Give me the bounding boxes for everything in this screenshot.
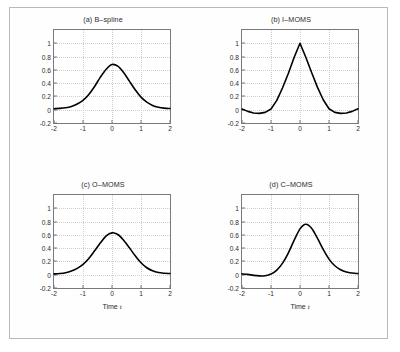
x-axis-label-text-c: Time [102,303,117,310]
data-series-line [54,64,170,108]
x-tick-label: -1 [80,125,86,132]
y-tick-label: 1 [47,40,51,47]
x-tick-label: -1 [268,290,274,297]
x-tick-label: -1 [268,125,274,132]
x-tick-label: 1 [139,125,143,132]
y-tick-label: 0.2 [42,93,51,100]
x-tick-label: 1 [139,290,143,297]
y-tick-label: 0.6 [42,231,51,238]
x-axis-label-d: Time t [241,303,359,311]
data-series-line [242,43,358,113]
y-tick-label: 0.6 [42,66,51,73]
x-tick-label: -2 [51,125,57,132]
panel-c-moms: (d) C–MOMS -2-1012-0.200.20.40.60.81 Tim… [205,180,377,330]
panel-o-moms: (c) O–MOMS -2-1012-0.200.20.40.60.81 Tim… [17,180,189,330]
plot-area-d: -2-1012-0.200.20.40.60.81 [241,194,359,289]
x-tick-label: -2 [239,125,245,132]
y-tick-label: 1 [235,40,239,47]
y-tick-label: 0.6 [230,66,239,73]
panel-i-moms: (b) I–MOMS -2-1012-0.200.20.40.60.81 [205,15,377,155]
x-tick-label: 0 [110,290,114,297]
x-tick-label: 0 [110,125,114,132]
panel-title-d: (d) C–MOMS [205,180,377,189]
x-tick-label: 0 [298,125,302,132]
y-tick-label: 0.6 [230,231,239,238]
y-tick-label: 0 [235,271,239,278]
x-tick-label: 2 [356,290,360,297]
x-axis-label-var-c: t [120,303,122,311]
x-tick-label: 1 [327,125,331,132]
plot-area-a: -2-1012-0.200.20.40.60.81 [53,29,171,124]
y-tick-label: -0.2 [40,120,51,127]
x-tick-label: 2 [168,290,172,297]
y-tick-label: 0.2 [230,258,239,265]
x-axis-label-text-d: Time [290,303,305,310]
y-tick-label: 0.4 [42,80,51,87]
y-tick-label: 0.8 [230,218,239,225]
x-tick-label: -1 [80,290,86,297]
data-series-line [54,233,170,274]
y-tick-label: 0.8 [42,218,51,225]
x-tick-label: 2 [168,125,172,132]
y-tick-label: 0.4 [230,245,239,252]
y-tick-label: 1 [235,205,239,212]
plot-area-b: -2-1012-0.200.20.40.60.81 [241,29,359,124]
y-tick-label: -0.2 [228,120,239,127]
y-tick-label: 0.4 [230,80,239,87]
y-tick-label: 0 [47,271,51,278]
curve-a [54,30,170,123]
figure-container: (a) B–spline -2-1012-0.200.20.40.60.81 (… [9,7,388,339]
plot-area-c: -2-1012-0.200.20.40.60.81 [53,194,171,289]
y-tick-label: 0 [235,106,239,113]
y-tick-label: 0.2 [230,93,239,100]
panel-title-a: (a) B–spline [17,15,189,24]
y-tick-label: 1 [47,205,51,212]
x-tick-label: -2 [51,290,57,297]
panel-title-c: (c) O–MOMS [17,180,189,189]
x-tick-label: 0 [298,290,302,297]
x-tick-label: -2 [239,290,245,297]
curve-d [242,195,358,288]
curve-c [54,195,170,288]
y-tick-label: 0.2 [42,258,51,265]
x-tick-label: 2 [356,125,360,132]
y-tick-label: 0.8 [42,53,51,60]
y-tick-label: 0.4 [42,245,51,252]
panel-b-spline: (a) B–spline -2-1012-0.200.20.40.60.81 [17,15,189,155]
x-tick-label: 1 [327,290,331,297]
y-tick-label: -0.2 [40,285,51,292]
panel-title-b: (b) I–MOMS [205,15,377,24]
y-tick-label: 0 [47,106,51,113]
y-tick-label: 0.8 [230,53,239,60]
x-axis-label-c: Time t [53,303,171,311]
data-series-line [242,224,358,276]
x-axis-label-var-d: t [308,303,310,311]
curve-b [242,30,358,123]
y-tick-label: -0.2 [228,285,239,292]
